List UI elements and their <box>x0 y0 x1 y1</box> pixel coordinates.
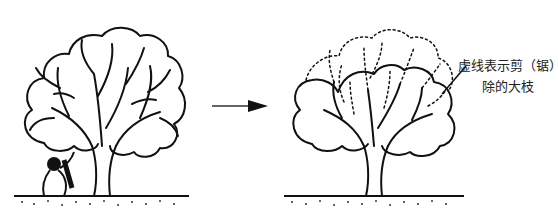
arrow-right-icon <box>212 96 268 116</box>
annotation-line-2: 除的大枝 <box>458 76 558 97</box>
annotation-label: 虚线表示剪（锯） 除的大枝 <box>458 55 558 97</box>
tree-before-pruning <box>14 18 189 214</box>
pruner-person <box>43 152 74 196</box>
annotation-line-1: 虚线表示剪（锯） <box>458 55 558 76</box>
tree-after-pruning <box>284 18 464 214</box>
